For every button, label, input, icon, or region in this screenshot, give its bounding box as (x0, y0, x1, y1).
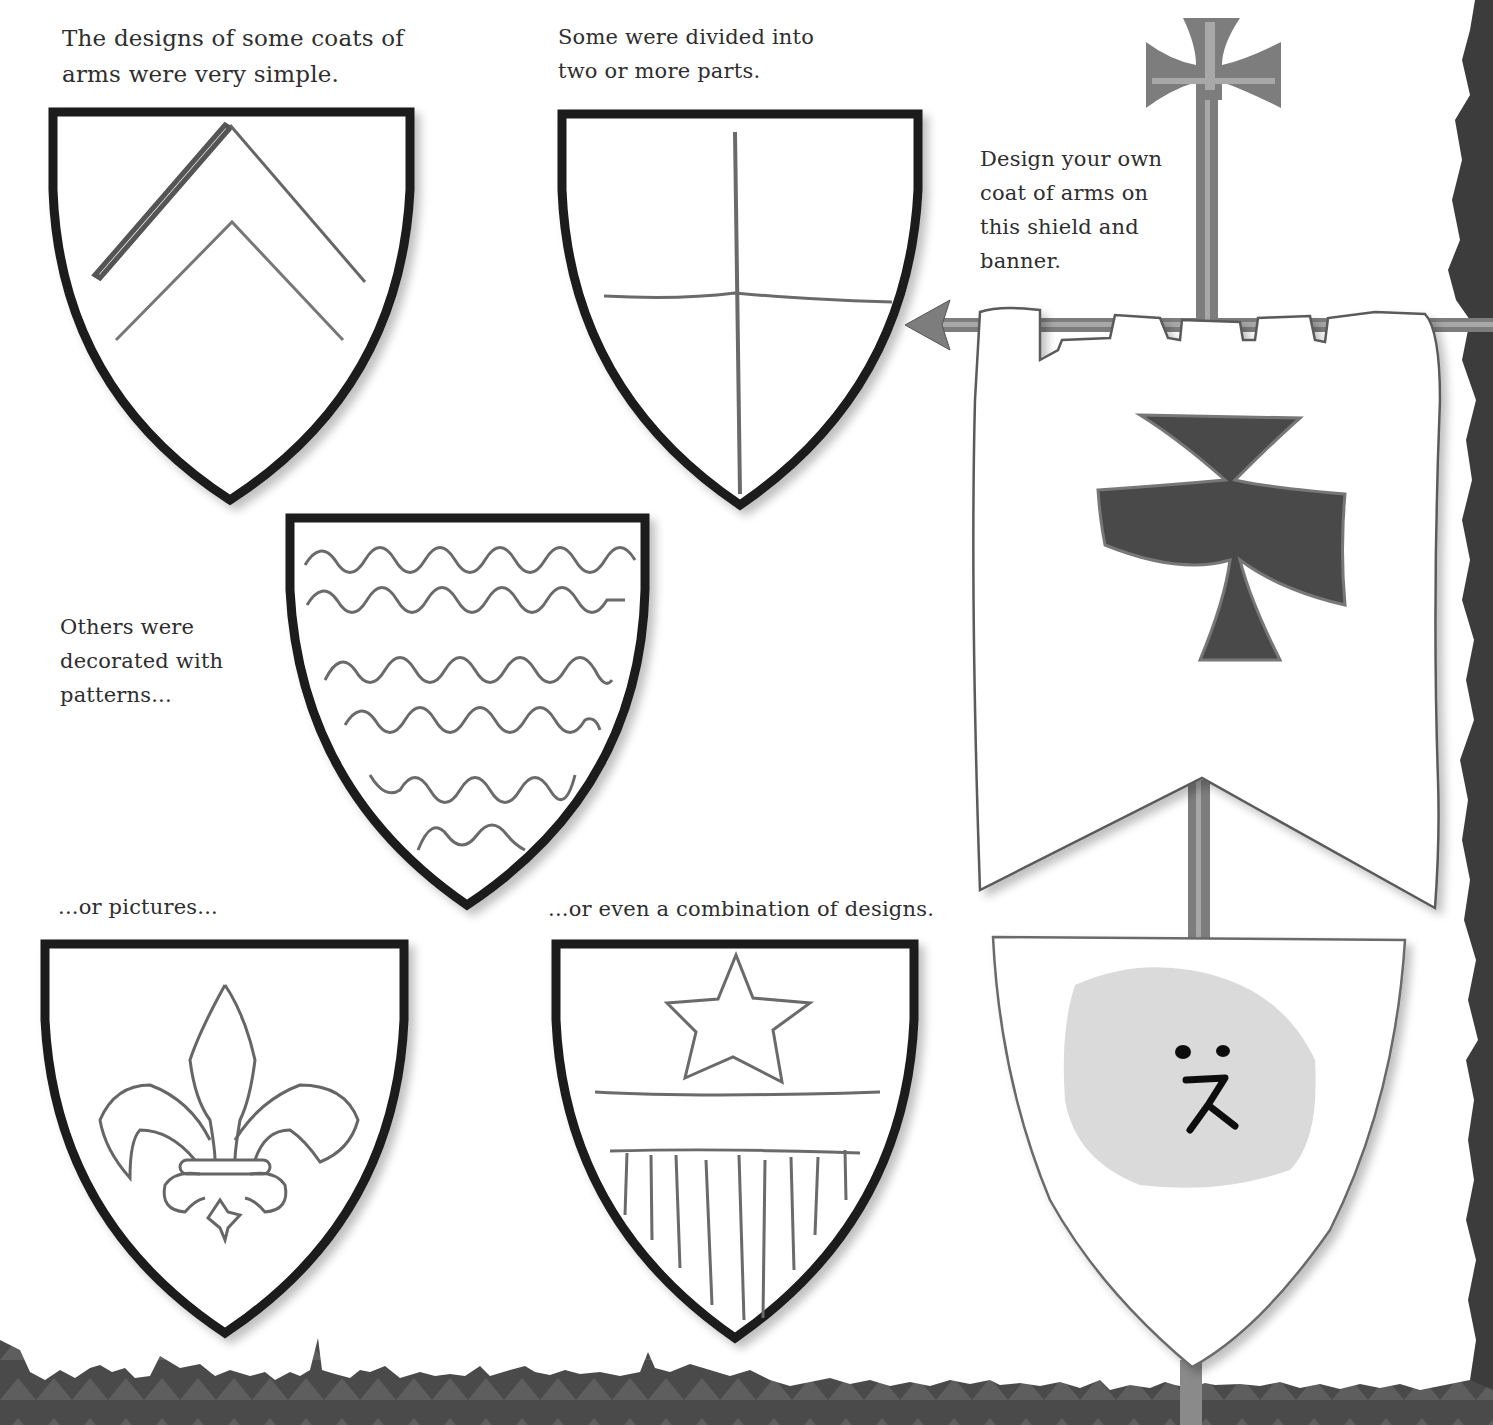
shield-divided (562, 114, 918, 505)
shield-patterns (290, 518, 645, 905)
activity-page: The designs of some coats of arms were v… (0, 0, 1493, 1425)
own-shield (993, 937, 1405, 1367)
shield-combination (556, 944, 914, 1338)
caption-simple: The designs of some coats of arms were v… (62, 20, 404, 92)
caption-pictures: ...or pictures... (58, 890, 218, 924)
torn-border-bottom (0, 1338, 1493, 1425)
page-artwork (0, 0, 1493, 1425)
shield-pictures (45, 944, 404, 1333)
caption-patterns: Others were decorated with patterns... (60, 610, 223, 712)
caption-combination: ...or even a combination of designs. (548, 892, 934, 926)
torn-border-right (1448, 0, 1493, 1425)
eye-left (1175, 1045, 1191, 1059)
caption-own-design: Design your own coat of arms on this shi… (980, 142, 1162, 278)
caption-divided: Some were divided into two or more parts… (558, 20, 814, 88)
eye-right (1216, 1045, 1230, 1057)
shield-simple (53, 112, 410, 500)
